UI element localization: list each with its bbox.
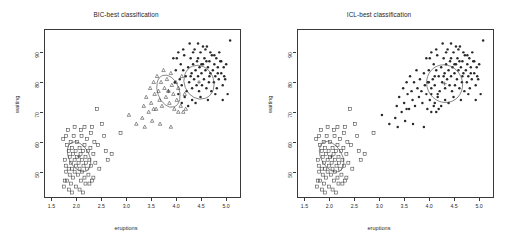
data-point	[180, 63, 182, 65]
y-tick-label: 90	[287, 52, 293, 58]
data-point	[332, 152, 335, 155]
data-point	[218, 78, 220, 80]
data-point	[100, 122, 103, 125]
data-point	[346, 140, 349, 143]
data-point	[213, 63, 215, 65]
data-point	[92, 152, 95, 155]
data-point	[106, 158, 109, 161]
data-point	[209, 51, 211, 53]
data-point	[330, 173, 333, 176]
data-point	[84, 161, 87, 164]
data-point	[95, 108, 98, 111]
data-point	[72, 134, 75, 137]
data-point	[82, 164, 85, 167]
data-point	[394, 117, 396, 119]
x-tick-label: 4.5	[450, 203, 457, 209]
data-point	[183, 96, 185, 98]
data-point	[425, 93, 427, 95]
plot-area-icl	[297, 29, 494, 198]
data-point	[148, 86, 151, 89]
data-point	[434, 84, 436, 86]
data-point	[327, 149, 330, 152]
data-point	[222, 66, 224, 68]
data-point	[80, 128, 83, 131]
data-point	[444, 87, 446, 89]
data-point	[220, 72, 222, 74]
data-point	[188, 42, 190, 44]
data-point	[205, 60, 207, 62]
data-point	[430, 111, 432, 113]
data-point	[453, 63, 455, 65]
data-point	[221, 99, 223, 101]
data-point	[90, 179, 93, 182]
x-tick-label: 4.0	[426, 203, 433, 209]
data-point	[324, 167, 327, 170]
panel-bic: BIC-best classification 5060708090 1.52.…	[0, 0, 252, 245]
data-point	[331, 188, 334, 191]
data-point	[194, 102, 196, 104]
data-point	[72, 176, 75, 179]
data-point	[64, 164, 67, 167]
data-point	[190, 72, 192, 74]
data-point	[152, 80, 155, 83]
data-point	[326, 125, 329, 128]
data-point	[405, 108, 407, 110]
data-point	[216, 87, 218, 89]
data-point	[175, 98, 178, 101]
data-point	[325, 176, 328, 179]
data-point	[189, 75, 191, 77]
data-point	[405, 81, 407, 83]
data-point	[82, 149, 85, 152]
data-point	[324, 191, 327, 194]
data-point	[142, 104, 145, 107]
data-point	[315, 137, 318, 140]
y-tick	[40, 52, 43, 53]
data-point	[436, 93, 438, 95]
data-point	[342, 146, 345, 149]
data-point	[429, 57, 431, 59]
data-point	[435, 69, 437, 71]
data-point	[433, 105, 435, 107]
data-point	[194, 69, 196, 71]
data-point	[65, 134, 68, 137]
data-point	[169, 71, 172, 74]
data-point	[80, 134, 83, 137]
data-point	[177, 93, 179, 95]
scatter-layer-bic	[45, 30, 240, 197]
data-point	[84, 182, 87, 185]
data-point	[144, 95, 147, 98]
y-axis-title-bic: waiting	[14, 96, 20, 113]
data-point	[320, 128, 323, 131]
data-point	[357, 149, 360, 152]
data-point	[469, 87, 471, 89]
data-point	[127, 113, 130, 116]
data-point	[442, 75, 444, 77]
data-point	[353, 122, 356, 125]
data-point	[90, 125, 93, 128]
data-point	[96, 143, 99, 146]
data-point	[430, 51, 432, 53]
data-point	[462, 51, 464, 53]
data-point	[71, 191, 74, 194]
data-point	[432, 78, 434, 80]
data-point	[458, 60, 460, 62]
y-tick	[293, 52, 296, 53]
data-point	[325, 152, 328, 155]
data-point	[183, 92, 186, 95]
data-point	[434, 75, 436, 77]
data-point	[85, 137, 88, 140]
data-point	[381, 114, 383, 116]
data-point	[333, 128, 336, 131]
data-point	[465, 69, 467, 71]
data-point	[135, 122, 138, 125]
data-point	[198, 90, 200, 92]
data-point	[73, 158, 76, 161]
data-point	[176, 57, 178, 59]
data-point	[477, 78, 479, 80]
data-point	[214, 75, 216, 77]
x-axis-bic: 1.52.02.53.03.54.04.55.0	[44, 198, 241, 199]
data-point	[67, 128, 70, 131]
y-tick-label: 60	[34, 142, 40, 148]
y-tick	[293, 142, 296, 143]
data-point	[81, 158, 84, 161]
